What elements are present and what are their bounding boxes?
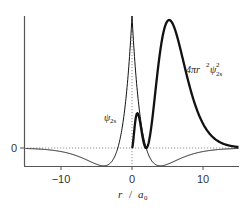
x-tick-label-10: 10 <box>197 173 209 185</box>
psi-2s-label: ψ 2s <box>104 112 117 125</box>
x-tick-label-0: 0 <box>129 173 135 185</box>
svg-text:4πr: 4πr <box>186 64 200 75</box>
chart-root: 0 −10 0 10 r / a 0 ψ 2s 4πr 2 ψ 2 2s <box>0 0 249 208</box>
svg-text:2s: 2s <box>110 117 117 125</box>
svg-text:0: 0 <box>144 194 148 202</box>
y-tick-label-0: 0 <box>11 142 17 154</box>
svg-text:/: / <box>129 188 133 200</box>
x-tick-label-neg10: −10 <box>52 173 71 185</box>
svg-text:2s: 2s <box>216 70 223 78</box>
radial-distribution-label: 4πr 2 ψ 2 2s <box>186 61 223 78</box>
svg-text:r: r <box>118 188 123 200</box>
radial-distribution-curve <box>132 20 239 148</box>
x-axis-label: r / a 0 <box>118 188 148 202</box>
svg-text:2: 2 <box>216 61 220 69</box>
plot-area <box>20 16 239 170</box>
